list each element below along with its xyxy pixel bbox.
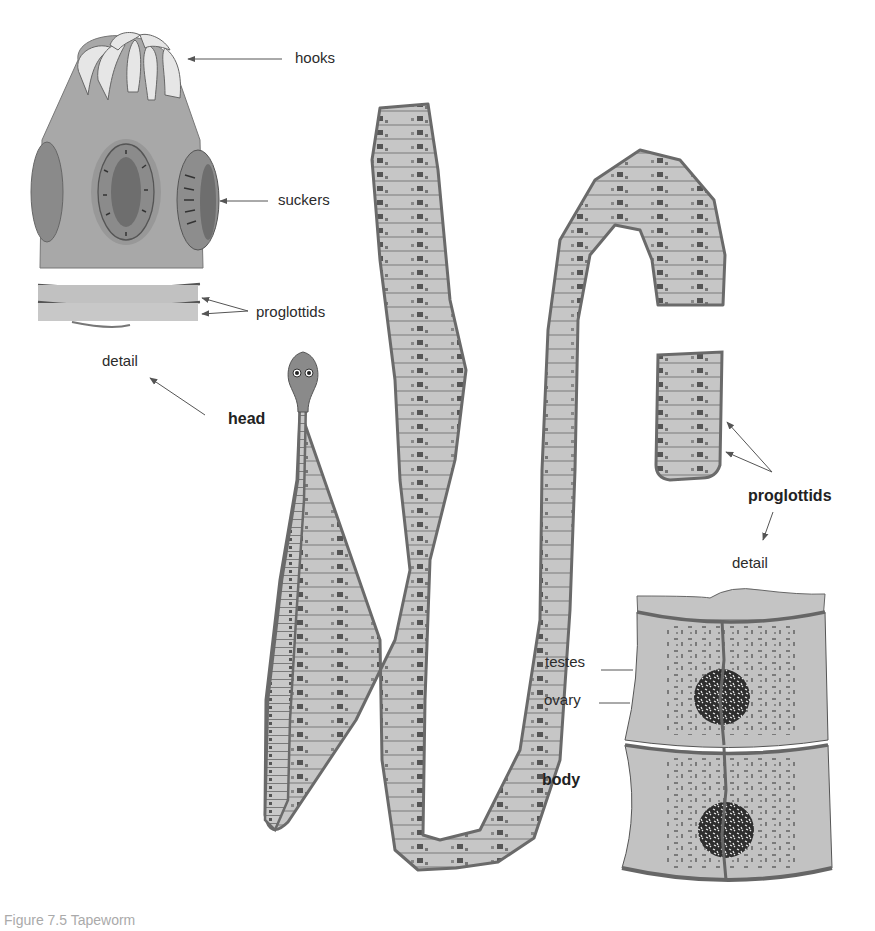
ovary-label: ovary: [544, 691, 581, 708]
proglottids-label: proglottids: [748, 487, 832, 504]
proglottids-detail-label: detail: [732, 554, 768, 571]
worm-head-icon: [288, 352, 318, 412]
head-proglottids-label: proglottids: [256, 303, 325, 320]
figure-caption: Figure 7.5 Tapeworm: [4, 912, 135, 928]
hooks-label: hooks: [295, 49, 335, 66]
head-detail-illustration: [31, 32, 219, 326]
testes-label: testes: [545, 653, 585, 670]
head-detail-label: detail: [102, 352, 138, 369]
body-label: body: [542, 771, 580, 788]
head-label: head: [228, 410, 265, 427]
suckers-label: suckers: [278, 191, 330, 208]
proglottid-detail-illustration: [622, 589, 832, 880]
